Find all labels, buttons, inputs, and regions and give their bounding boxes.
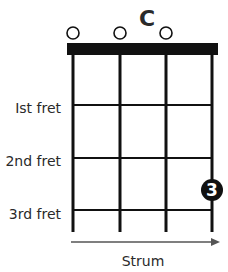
open-string-marker-3 (160, 27, 172, 39)
open-string-markers (67, 27, 172, 39)
finger-number: 3 (206, 180, 218, 200)
strum-label: Strum (122, 253, 165, 269)
strum-arrow-head (211, 238, 220, 246)
open-string-marker-2 (114, 27, 126, 39)
nut (67, 43, 218, 55)
chord-name: C (139, 6, 155, 31)
fret-lines (72, 105, 213, 210)
open-string-marker-1 (67, 27, 79, 39)
finger-markers: 3 (201, 179, 223, 201)
fret-label-1: Ist fret (15, 100, 61, 116)
strings (73, 55, 212, 232)
fret-label-3: 3rd fret (9, 206, 62, 222)
chord-diagram: C Ist fret 2nd fret 3rd fret 3 Strum (0, 0, 228, 272)
fret-label-2: 2nd fret (5, 153, 61, 169)
